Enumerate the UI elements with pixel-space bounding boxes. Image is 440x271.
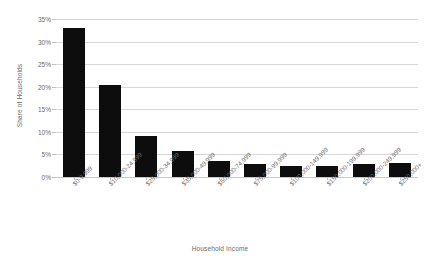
y-axis-tick-label: 35% [38, 16, 51, 23]
y-axis-tick-label: 15% [38, 106, 51, 113]
bar-slot [165, 19, 201, 177]
y-axis-tick-label: 30% [38, 38, 51, 45]
bar-slot [382, 19, 418, 177]
x-axis-title: Household Income [0, 245, 440, 252]
bar-slot [237, 19, 273, 177]
bar-slot [346, 19, 382, 177]
bar[interactable] [63, 28, 85, 177]
y-axis-tick-label: 20% [38, 83, 51, 90]
bar-slot [273, 19, 309, 177]
y-axis-tick-mark [52, 177, 56, 178]
bar-series [56, 19, 418, 177]
bar-slot [92, 19, 128, 177]
y-axis-tick-label: 25% [38, 61, 51, 68]
y-axis-tick-label: 10% [38, 128, 51, 135]
plot-area: 0%5%10%15%20%25%30%35% [56, 19, 418, 177]
bar-slot [56, 19, 92, 177]
bar[interactable] [99, 85, 121, 177]
y-axis-tick-label: 0% [42, 174, 51, 181]
y-axis-tick-label: 5% [42, 151, 51, 158]
bar-chart: Share of Households 0%5%10%15%20%25%30%3… [0, 0, 440, 271]
y-axis-title: Share of Households [16, 31, 23, 161]
bar-slot [201, 19, 237, 177]
